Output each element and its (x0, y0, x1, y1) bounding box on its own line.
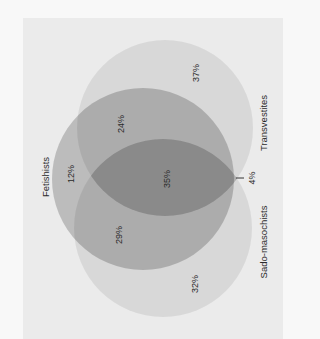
region-sadomasochists-only: 32% (191, 275, 200, 293)
sadomasochists-label: Sado-masochists (259, 206, 269, 279)
region-all-three: 35% (163, 170, 172, 188)
region-fetishists-sadomasochists: 29% (115, 226, 124, 244)
fetishists-label: Fetishists (41, 157, 51, 197)
region-transvestites-sadomasochists: 4% (248, 171, 257, 184)
region-fetishists-only: 12% (67, 165, 76, 183)
region-fetishists-transvestites: 24% (117, 115, 126, 133)
region-transvestites-only: 37% (192, 64, 201, 82)
transvestites-label: Transvestites (259, 95, 269, 151)
